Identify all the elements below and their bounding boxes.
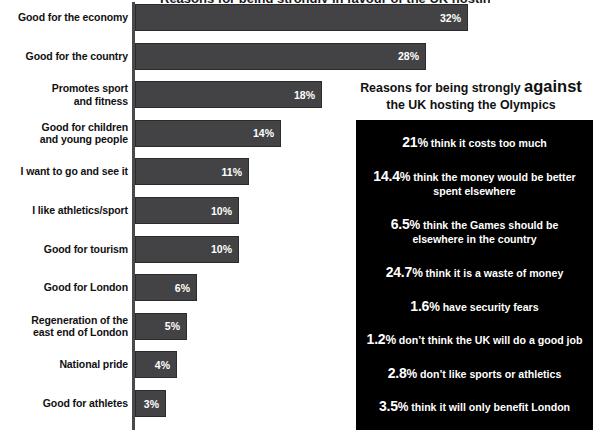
against-reason-item: 14.4% think the money would be better sp…	[364, 169, 585, 199]
bar-value-label: 28%	[398, 50, 425, 62]
bar-row: Good for tourism10%	[0, 236, 340, 263]
bar: 14%	[135, 120, 281, 147]
against-reason-item: 1.2% don’t think the UK will do a good j…	[364, 332, 585, 348]
bar-row-label: Good for London	[0, 281, 128, 293]
against-reason-text: think the Games should be elsewhere in t…	[412, 219, 558, 246]
bar-row: Good for the country28%	[0, 43, 340, 70]
bar-row-label: Good for the country	[0, 50, 128, 62]
against-reason-percent: 1.2%	[367, 331, 396, 347]
against-reason-text: don’t think the UK will do a good job	[396, 334, 583, 346]
bar-value-label: 14%	[253, 127, 280, 139]
bar-row-label: Regeneration of theeast end of London	[0, 314, 128, 339]
infographic-root: Reasons for being strongly in favour of …	[0, 0, 603, 439]
against-reason-percent: 14.4%	[373, 168, 410, 184]
bar-chart: Good for the economy32%Good for the coun…	[0, 0, 340, 439]
against-reason-text: think it will only benefit London	[408, 401, 570, 413]
bar-row: Regeneration of theeast end of London5%	[0, 313, 340, 340]
bar-value-label: 4%	[155, 359, 176, 371]
bar-value-label: 11%	[222, 166, 248, 178]
against-reason-percent: 21%	[402, 134, 428, 150]
bar-value-label: 6%	[175, 282, 196, 294]
against-reason-item: 1.6% have security fears	[364, 299, 585, 315]
bar-value-label: 10%	[211, 205, 238, 217]
against-reasons-box: 21% think it costs too much14.4% think t…	[356, 120, 593, 430]
against-reason-text: think it is a waste of money	[423, 267, 564, 279]
bar-row-label: I like athletics/sport	[0, 204, 128, 216]
bar-value-label: 10%	[211, 243, 238, 255]
bar-value-label: 18%	[294, 89, 321, 101]
against-reason-percent: 1.6%	[410, 298, 439, 314]
against-reason-item: 21% think it costs too much	[364, 135, 585, 151]
bar-row: Promotes sportand fitness18%	[0, 81, 340, 108]
against-reason-item: 2.8% don’t like sports or athletics	[364, 366, 585, 382]
bar: 5%	[135, 313, 187, 340]
bar-value-label: 5%	[165, 320, 186, 332]
bar: 32%	[135, 4, 468, 31]
bar-row: I like athletics/sport10%	[0, 197, 340, 224]
bar-row-label: Good for tourism	[0, 243, 128, 255]
bar-row: Good for London6%	[0, 274, 340, 301]
bar-value-label: 32%	[440, 12, 467, 24]
against-reason-percent: 3.5%	[379, 398, 408, 414]
against-panel-heading: Reasons for being strongly against the U…	[345, 78, 597, 114]
bar-value-label: 3%	[144, 398, 165, 410]
bar-row: Good for athletes3%	[0, 390, 340, 417]
against-reason-text: don’t like sports or athletics	[417, 368, 561, 380]
against-reason-percent: 2.8%	[388, 365, 417, 381]
bar-row: National pride4%	[0, 351, 340, 378]
bar-row-label: Good for athletes	[0, 397, 128, 409]
bar: 18%	[135, 81, 322, 108]
bar: 10%	[135, 236, 239, 263]
against-reason-text: think it costs too much	[428, 137, 547, 149]
against-reason-text: think the money would be better spent el…	[410, 171, 575, 198]
bar: 4%	[135, 351, 177, 378]
against-panel: Reasons for being strongly against the U…	[345, 78, 597, 434]
bar-row: I want to go and see it11%	[0, 158, 340, 185]
bar-row-label: Good for the economy	[0, 11, 128, 23]
bar: 28%	[135, 43, 426, 70]
bar: 10%	[135, 197, 239, 224]
heading-text-emphasis: against	[524, 77, 582, 95]
bar-row-label: I want to go and see it	[0, 165, 128, 177]
bar-row-label: Promotes sportand fitness	[0, 82, 128, 107]
against-reason-text: have security fears	[440, 301, 539, 313]
bar-row: Good for the economy32%	[0, 4, 340, 31]
against-reason-item: 3.5% think it will only benefit London	[364, 399, 585, 415]
against-reason-percent: 24.7%	[386, 264, 423, 280]
against-reason-item: 24.7% think it is a waste of money	[364, 265, 585, 281]
bar-row-label: National pride	[0, 358, 128, 370]
heading-text-part2: the UK hosting the Olympics	[386, 98, 555, 112]
against-reason-item: 6.5% think the Games should be elsewhere…	[364, 217, 585, 247]
bar: 11%	[135, 158, 249, 185]
against-reason-percent: 6.5%	[391, 216, 420, 232]
bar-row: Good for childrenand young people14%	[0, 120, 340, 147]
bar: 6%	[135, 274, 197, 301]
heading-text-part1: Reasons for being strongly	[360, 81, 524, 95]
bar-row-label: Good for childrenand young people	[0, 121, 128, 146]
bar: 3%	[135, 390, 166, 417]
